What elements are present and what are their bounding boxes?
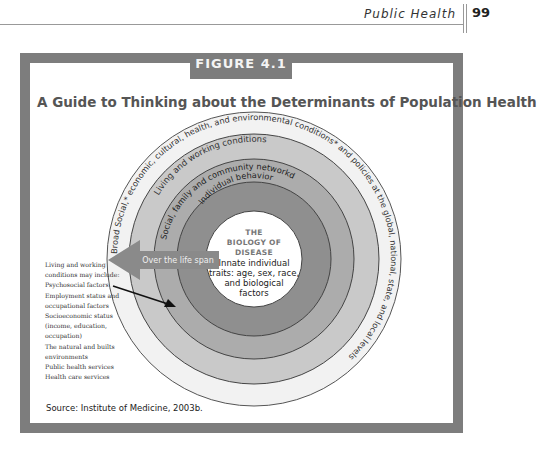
center-body-line: Innate individual [206, 258, 302, 268]
figure-source: Source: Institute of Medicine, 2003b. [46, 403, 203, 413]
legend-line: Health care services [45, 372, 145, 382]
legend-line: Living and working [45, 260, 145, 270]
life-span-label: Over the life span [142, 256, 213, 265]
legend-line: Socioeconomic status [45, 311, 145, 321]
legend-line: occupational factors [45, 301, 145, 311]
legend-line: conditions may include: [45, 270, 145, 280]
center-body-line: factors [206, 288, 302, 298]
legend-line: Psychosocial factors [45, 280, 145, 290]
center-text: THE BIOLOGY OF DISEASE Innate individual… [206, 228, 302, 298]
center-heading-line: THE [206, 228, 302, 238]
legend-line: environments [45, 352, 145, 362]
center-body-line: traits: age, sex, race, [206, 268, 302, 278]
center-heading-line: DISEASE [206, 248, 302, 258]
living-conditions-legend: Living and working conditions may includ… [45, 260, 145, 382]
legend-line: occupation) [45, 331, 145, 341]
legend-line: (income, education, [45, 321, 145, 331]
legend-line: Employment status and [45, 291, 145, 301]
legend-line: Public health services [45, 362, 145, 372]
center-heading-line: BIOLOGY OF [206, 238, 302, 248]
legend-line: The natural and builts [45, 342, 145, 352]
center-body-line: and biological [206, 278, 302, 288]
